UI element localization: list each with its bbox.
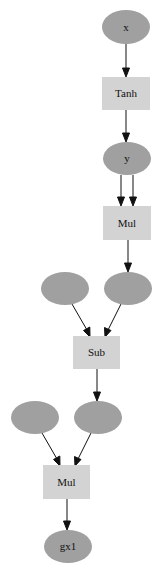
computational-graph: x Tanh y Mul Sub xyxy=(0,0,165,573)
edge-y-to-mul1-b xyxy=(130,175,137,206)
node-label-mul-1: Mul xyxy=(118,217,136,229)
edge-mul1-to-v2 xyxy=(125,240,132,272)
edge-mul2-to-gx1 xyxy=(64,499,71,530)
node-variable-unlabeled-2 xyxy=(104,272,152,305)
edge-v4-to-mul2 xyxy=(75,433,92,466)
edge-tanh-to-y xyxy=(123,110,130,142)
edge-v2-to-sub xyxy=(105,304,122,337)
node-variable-gx1: gx1 xyxy=(44,530,92,563)
node-label-gx1: gx1 xyxy=(60,540,77,552)
node-variable-unlabeled-3 xyxy=(11,401,59,434)
node-variable-x: x xyxy=(102,10,150,44)
node-label-tanh: Tanh xyxy=(115,87,137,99)
node-variable-unlabeled-4 xyxy=(74,401,122,434)
edge-x-to-tanh xyxy=(123,44,130,77)
edge-y-to-mul1-a xyxy=(118,175,125,206)
node-function-mul-1: Mul xyxy=(103,206,151,240)
node-variable-unlabeled-1 xyxy=(41,272,89,305)
node-label-sub: Sub xyxy=(88,346,106,358)
edge-sub-to-v4 xyxy=(94,369,101,401)
node-function-tanh: Tanh xyxy=(102,77,150,110)
nodes: x Tanh y Mul Sub xyxy=(11,10,152,563)
edge-v1-to-sub xyxy=(72,304,90,337)
node-label-y: y xyxy=(124,152,130,164)
node-function-sub: Sub xyxy=(73,336,120,369)
node-function-mul-2: Mul xyxy=(43,465,90,499)
node-label-mul-2: Mul xyxy=(57,476,75,488)
edge-v3-to-mul2 xyxy=(42,433,60,466)
node-label-x: x xyxy=(123,21,129,33)
node-variable-y: y xyxy=(103,142,151,175)
